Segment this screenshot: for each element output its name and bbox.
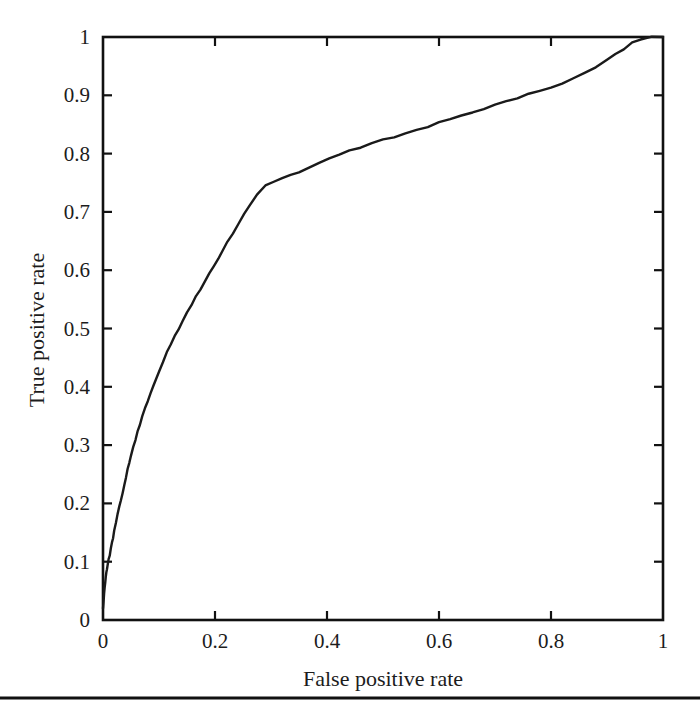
y-tick-label: 0.8: [64, 142, 90, 166]
y-tick-label: 0.7: [64, 200, 90, 224]
y-tick-label: 0.3: [64, 433, 90, 457]
y-tick-label: 0: [80, 608, 91, 632]
y-axis-ticks: [103, 95, 663, 561]
x-tick-label: 0.8: [538, 629, 564, 653]
x-axis-tick-labels: 00.20.40.60.81: [98, 629, 669, 653]
x-tick-label: 0.6: [426, 629, 452, 653]
roc-chart-svg: 00.20.40.60.81 00.10.20.30.40.50.60.70.8…: [0, 0, 700, 706]
x-tick-label: 1: [658, 629, 669, 653]
y-tick-label: 0.5: [64, 317, 90, 341]
y-tick-label: 1: [80, 25, 91, 49]
x-axis-title: False positive rate: [303, 666, 463, 691]
x-tick-label: 0.4: [314, 629, 341, 653]
x-tick-label: 0.2: [202, 629, 228, 653]
y-axis-tick-labels: 00.10.20.30.40.50.60.70.80.91: [64, 25, 91, 632]
plot-frame: [103, 37, 663, 620]
y-tick-label: 0.1: [64, 550, 90, 574]
y-tick-label: 0.6: [64, 258, 90, 282]
plot-box-border: [103, 37, 663, 620]
y-tick-label: 0.2: [64, 491, 90, 515]
roc-figure: 00.20.40.60.81 00.10.20.30.40.50.60.70.8…: [0, 0, 700, 706]
x-tick-label: 0: [98, 629, 109, 653]
y-tick-label: 0.4: [64, 375, 91, 399]
x-axis-ticks: [215, 37, 551, 620]
roc-curve-line: [103, 37, 663, 609]
y-axis-title: True positive rate: [24, 253, 49, 407]
y-tick-label: 0.9: [64, 83, 90, 107]
